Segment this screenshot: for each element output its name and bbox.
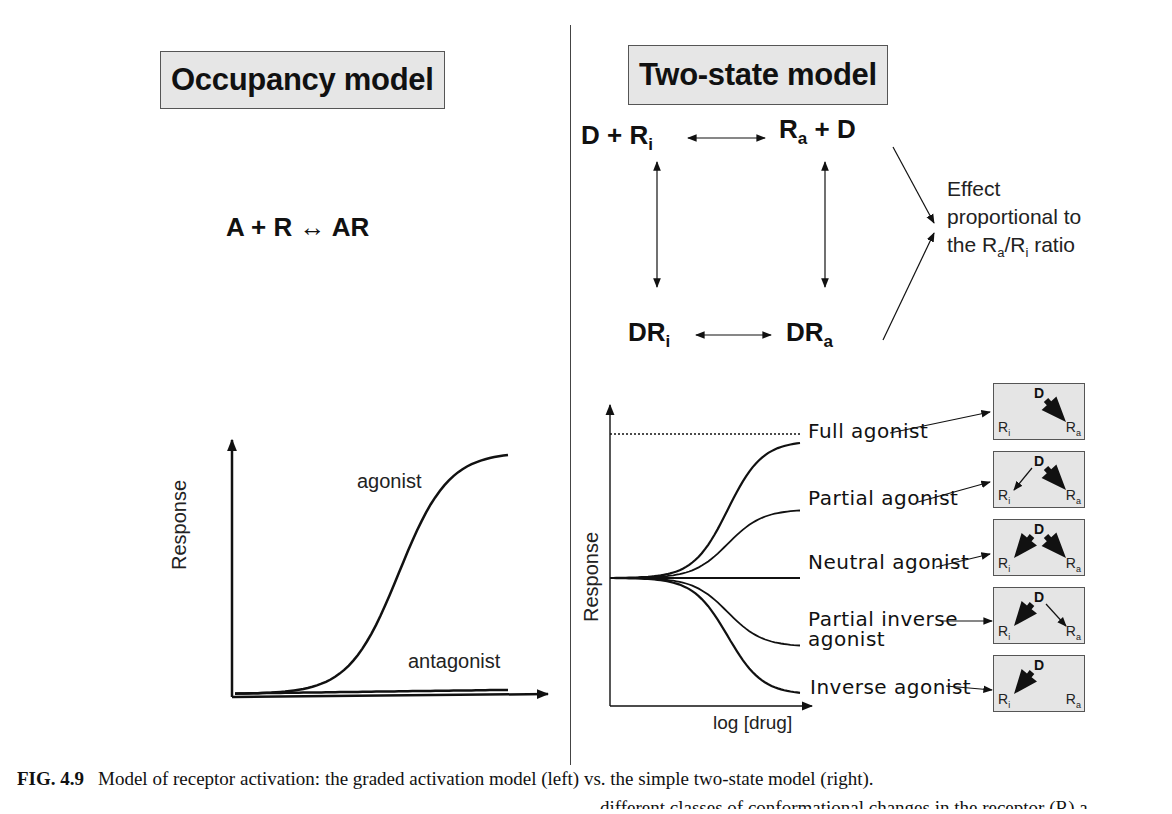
- inverse-agonist-label: Inverse agonist: [810, 675, 971, 699]
- to-ra-small-arrow-icon: [1046, 604, 1066, 626]
- neutral-agonist-label: Neutral agonist: [808, 550, 969, 574]
- scheme-ra-plus-d: Ra + D: [779, 114, 856, 149]
- left-x-axis: [232, 694, 548, 697]
- left-ylabel: Response: [168, 480, 191, 570]
- figure-label: FIG. 4.9: [17, 768, 84, 789]
- to-ri-small-arrow-icon: [1014, 468, 1032, 490]
- partial-agonist-label: Partial agonist: [808, 486, 958, 510]
- effect-arrow-from-ra: [893, 147, 934, 223]
- partial-inverse-agonist-curve: [610, 578, 800, 646]
- partial-inverse-agonist-label: Partial inverseagonist: [808, 609, 958, 649]
- mini-box-neutral-agonist: DRiRa: [993, 519, 1085, 576]
- scheme-d-plus-ri: D + Ri: [581, 120, 653, 155]
- to-ri-large-arrow-icon: [1014, 669, 1037, 694]
- caption-text: Model of receptor activation: the graded…: [98, 768, 874, 789]
- mini-box-full-agonist: DRiRa: [993, 383, 1085, 440]
- antagonist-curve-label: antagonist: [408, 650, 500, 673]
- effect-note: Effect proportional to the Ra/Ri ratio: [947, 175, 1081, 267]
- mini-box-inverse-agonist: DRiRa: [993, 655, 1085, 712]
- right-xlabel: log [drug]: [713, 712, 792, 734]
- scheme-dra: DRa: [786, 317, 833, 352]
- two-state-model-title: Two-state model: [628, 45, 888, 105]
- mini-box-partial-inverse-agonist: DRiRa: [993, 587, 1085, 644]
- full-agonist-label: Full agonist: [808, 419, 928, 443]
- to-ra-large-arrow-icon: [1042, 397, 1066, 422]
- scheme-dri: DRi: [628, 317, 670, 352]
- right-ylabel: Response: [580, 532, 603, 622]
- inverse-agonist-curve: [610, 578, 800, 693]
- mini-box-partial-agonist: DRiRa: [993, 451, 1085, 508]
- effect-note-line3: the Ra/Ri ratio: [947, 231, 1081, 267]
- effect-arrow-from-dra: [883, 233, 934, 340]
- figure-caption-line1: FIG. 4.9Model of receptor activation: th…: [17, 768, 874, 790]
- to-ra-large-arrow-icon: [1042, 533, 1066, 558]
- effect-note-line1: Effect: [947, 175, 1081, 203]
- effect-note-line2: proportional to: [947, 203, 1081, 231]
- full-agonist-curve: [610, 443, 800, 578]
- agonist-curve-label: agonist: [357, 470, 422, 493]
- to-ra-large-arrow-icon: [1042, 465, 1066, 490]
- to-ri-large-arrow-icon: [1014, 601, 1037, 626]
- to-ri-large-arrow-icon: [1014, 533, 1037, 558]
- partial-agonist-curve: [610, 511, 800, 579]
